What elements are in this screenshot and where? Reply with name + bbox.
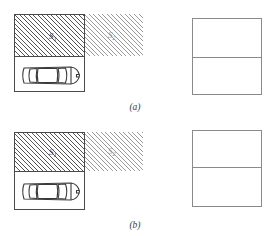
zone-s1-label-a: S1	[49, 32, 57, 41]
figure-panel-b: S2 S1	[0, 118, 270, 236]
zone-s1-b: S1	[15, 133, 84, 172]
square-divider-b	[193, 167, 261, 168]
bay-box-a: S1	[14, 14, 85, 92]
square-divider-a	[193, 57, 261, 58]
bay-box-b: S1	[14, 132, 85, 210]
car-area-b	[15, 176, 84, 207]
zone-s2-b: S2	[85, 132, 143, 171]
car-top-view-a	[19, 61, 82, 90]
panel-caption-b: (b)	[0, 220, 270, 230]
panel-caption-a: (a)	[0, 102, 270, 112]
car-top-view-b	[19, 176, 82, 207]
figure-panel-a: S2 S1	[0, 0, 270, 118]
zone-s1-a: S1	[15, 15, 84, 57]
split-square-b	[192, 130, 262, 207]
zone-s1-label-b: S1	[49, 148, 57, 157]
zone-s2-a: S2	[85, 14, 143, 56]
car-area-a	[15, 61, 84, 90]
split-square-a	[192, 18, 262, 95]
zone-s2-label-a: S2	[108, 31, 116, 40]
zone-s2-label-b: S2	[108, 147, 116, 156]
